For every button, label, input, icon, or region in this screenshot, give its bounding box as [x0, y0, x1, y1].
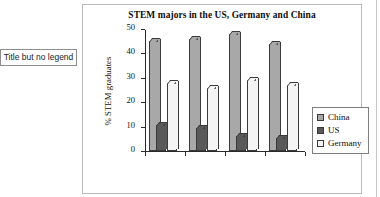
legend-label-china: China: [328, 113, 350, 122]
plot-area: 01020304050: [145, 30, 305, 152]
y-tick: 30: [141, 78, 145, 79]
bar-side-face: [238, 32, 241, 149]
legend-item-us: US: [317, 124, 362, 137]
legend-swatch-us: [317, 127, 324, 134]
y-tick-label: 30: [126, 72, 135, 81]
x-tick: [225, 152, 226, 156]
bar-side-face: [176, 81, 179, 149]
bar-side-face: [256, 78, 259, 149]
y-tick: 10: [141, 127, 145, 128]
bar-germany: [247, 80, 257, 151]
chart-frame: STEM majors in the US, Germany and China…: [82, 4, 362, 194]
x-tick: [145, 152, 146, 156]
legend-swatch-germany: [317, 140, 324, 147]
bar-side-face: [278, 42, 281, 149]
x-tick: [185, 152, 186, 156]
bar-us: [196, 128, 206, 151]
y-tick-label: 50: [126, 23, 135, 32]
y-tick-label: 40: [126, 47, 135, 56]
bar-germany: [207, 88, 217, 151]
y-tick-label: 10: [126, 121, 135, 130]
y-axis-line: [145, 30, 146, 152]
bar-side-face: [296, 83, 299, 149]
bar-side-face: [285, 136, 288, 149]
x-tick: [305, 152, 306, 156]
x-tick: [265, 152, 266, 156]
legend-swatch-china: [317, 114, 324, 121]
bar-germany: [167, 83, 177, 151]
page-edge-rule: [376, 0, 377, 197]
legend-label-germany: Germany: [328, 139, 362, 148]
y-axis-label: % STEM graduates: [101, 30, 115, 152]
bar-side-face: [165, 123, 168, 149]
chart-legend: China US Germany: [312, 107, 369, 154]
bar-side-face: [205, 126, 208, 149]
bar-us: [276, 138, 286, 151]
chart-title: STEM majors in the US, Germany and China: [83, 10, 361, 20]
y-tick: 20: [141, 102, 145, 103]
bar-side-face: [216, 86, 219, 149]
legend-item-china: China: [317, 111, 362, 124]
y-tick: 50: [141, 29, 145, 30]
legend-label-us: US: [328, 126, 340, 135]
y-tick-label: 20: [126, 96, 135, 105]
bar-china: [269, 44, 279, 151]
legend-item-germany: Germany: [317, 137, 362, 150]
bar-germany: [287, 85, 297, 151]
bar-us: [156, 125, 166, 151]
y-tick-label: 0: [131, 145, 135, 154]
annotation-callout-text: Title but no legend: [4, 53, 74, 62]
bar-us: [236, 136, 246, 151]
annotation-callout: Title but no legend: [0, 49, 77, 66]
bar-side-face: [245, 134, 248, 149]
y-tick: 40: [141, 53, 145, 54]
